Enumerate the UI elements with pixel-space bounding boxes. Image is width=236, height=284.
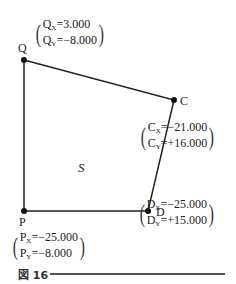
coord-px: PX=−25.000 (20, 231, 78, 247)
label-q: Q (18, 42, 27, 54)
vertex-p (21, 208, 27, 214)
left-paren: ( (13, 235, 18, 259)
right-paren: ) (209, 202, 214, 226)
label-p: P (19, 216, 26, 228)
region-label-s: S (78, 160, 85, 176)
coord-qx: QX=3.000 (43, 18, 97, 34)
coords-d: ( DX=−25.000 DY=+15.000 ) (138, 198, 216, 230)
right-paren: ) (99, 22, 104, 46)
coords-q: ( QX=3.000 QY=−8.000 ) (34, 18, 106, 50)
left-paren: ( (140, 202, 145, 226)
coord-cy: CY=+16.000 (148, 137, 208, 153)
coord-cx: CX=−21.000 (148, 121, 208, 137)
vertex-c (171, 97, 177, 103)
caption-rule (50, 273, 225, 275)
coord-dy: DY=+15.000 (147, 214, 207, 230)
vertex-q (21, 57, 27, 63)
coords-c: ( CX=−21.000 CY=+16.000 ) (139, 121, 216, 153)
right-paren: ) (209, 125, 214, 149)
coord-qy: QY=−8.000 (43, 34, 97, 50)
right-paren: ) (80, 235, 85, 259)
left-paren: ( (141, 125, 146, 149)
coord-py: PY=−8.000 (20, 247, 78, 263)
coord-dx: DX=−25.000 (147, 198, 207, 214)
coords-p: ( PX=−25.000 PY=−8.000 ) (11, 231, 87, 263)
figure-caption: 図 16 (18, 266, 48, 282)
left-paren: ( (36, 22, 41, 46)
label-c: C (180, 95, 188, 107)
